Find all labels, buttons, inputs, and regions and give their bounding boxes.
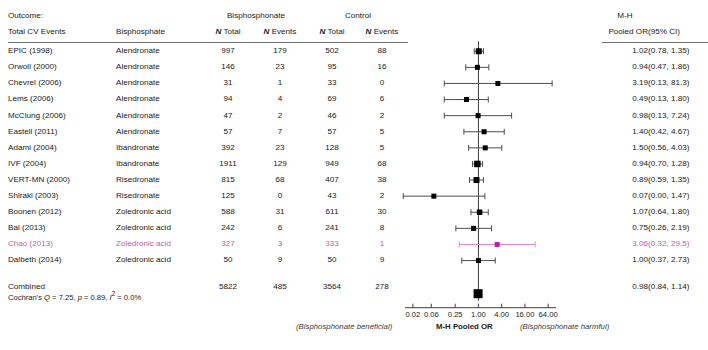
study-label: EPIC (1998) xyxy=(8,43,116,60)
ctrl-n-total: 46 xyxy=(308,108,356,124)
bisph-n-total: 997 xyxy=(204,43,252,60)
ctrl-n-events: 68 xyxy=(356,156,408,172)
q-value: = 7.25, xyxy=(50,293,78,302)
ctrl-n-events: 30 xyxy=(356,204,408,220)
bisph-n-events: 1 xyxy=(252,75,308,91)
drug-name: Zoledronic acid xyxy=(116,204,204,220)
study-label: Boonen (2012) xyxy=(8,204,116,220)
table-row: McClung (2006)Alendronate4724620.98(0.13… xyxy=(8,108,708,124)
table-row: Eastell (2011)Alendronate5775751.40(0.42… xyxy=(8,124,708,140)
group-header-bisphosphonate: Bisphosphonate xyxy=(204,8,308,24)
table-row: Chao (2013)Zoledronic acid327333313.06(0… xyxy=(8,236,708,252)
bisph-n-events: 179 xyxy=(252,43,308,60)
spacer-cell xyxy=(408,269,602,279)
odds-ratio: 0.94 xyxy=(602,59,648,75)
drug-name: Alendronate xyxy=(116,108,204,124)
combined-confidence-interval: (0.84, 1.14) xyxy=(648,279,708,295)
axis-tick-label: 4.00 xyxy=(494,310,509,319)
drug-name: Alendronate xyxy=(116,91,204,107)
odds-ratio: 1.07 xyxy=(602,204,648,220)
ctrl-n-events: 88 xyxy=(356,43,408,60)
outcome-label-line2: Total CV Events xyxy=(8,24,116,40)
plot-cell xyxy=(408,91,602,107)
table-row: Chevrel (2006)Alendronate3113303.19(0.13… xyxy=(8,75,708,91)
ci-header-spacer xyxy=(648,8,708,24)
plot-cell xyxy=(408,59,602,75)
bisph-n-events: 23 xyxy=(252,59,308,75)
ctrl-n-total: 333 xyxy=(308,236,356,252)
plot-column-spacer xyxy=(408,24,602,40)
plot-cell xyxy=(408,172,602,188)
bisph-n-total: 392 xyxy=(204,140,252,156)
forest-plot-table: Outcome:BisphosphonateControlM-HTotal CV… xyxy=(8,8,708,295)
confidence-interval: (0.13, 1.80) xyxy=(648,91,708,107)
bisph-n-total: 327 xyxy=(204,236,252,252)
spacer-cell xyxy=(116,269,204,279)
drug-name: Zoledronic acid xyxy=(116,220,204,236)
axis-tick-label: 16.00 xyxy=(515,310,534,319)
ctrl-n-total: 50 xyxy=(308,252,356,268)
column-header-ctrl-nevents: N Events xyxy=(356,24,408,40)
odds-ratio: 0.98 xyxy=(602,108,648,124)
plot-header-spacer xyxy=(408,8,602,24)
table-row: Dalbeth (2014)Zoledronic acid5095091.00(… xyxy=(8,252,708,268)
bisph-n-total: 47 xyxy=(204,108,252,124)
spacer-cell xyxy=(308,269,356,279)
plot-cell xyxy=(408,75,602,91)
bisph-n-events: 3 xyxy=(252,236,308,252)
mh-header-line1: M-H xyxy=(602,8,648,24)
axis-label-beneficial: (Bisphosphonate beneficial) xyxy=(296,322,392,331)
ctrl-n-total: 57 xyxy=(308,124,356,140)
plot-cell xyxy=(408,156,602,172)
plot-cell xyxy=(408,204,602,220)
bisph-n-total: 50 xyxy=(204,252,252,268)
table-row: EPIC (1998)Alendronate997179502881.02(0.… xyxy=(8,43,708,60)
spacer-cell xyxy=(356,269,408,279)
table-spacer-row xyxy=(8,269,708,279)
study-label: IVF (2004) xyxy=(8,156,116,172)
drug-name: Zoledronic acid xyxy=(116,252,204,268)
drug-name: Risedronate xyxy=(116,188,204,204)
confidence-interval: (0.56, 4.03) xyxy=(648,140,708,156)
ctrl-n-total: 611 xyxy=(308,204,356,220)
spacer-cell xyxy=(116,8,204,24)
table-row: Bai (2013)Zoledronic acid242624180.75(0.… xyxy=(8,220,708,236)
ctrl-n-events: 8 xyxy=(356,220,408,236)
table-column-header-row: Total CV EventsBisphosphateN TotalN Even… xyxy=(8,24,708,40)
ctrl-n-total: 33 xyxy=(308,75,356,91)
plot-cell xyxy=(408,124,602,140)
combined-plot-cell xyxy=(408,279,602,295)
bisph-n-total: 588 xyxy=(204,204,252,220)
bisph-n-total: 125 xyxy=(204,188,252,204)
drug-name: Alendronate xyxy=(116,59,204,75)
study-label: Adami (2004) xyxy=(8,140,116,156)
combined-bisph-n-total: 5822 xyxy=(204,279,252,295)
study-label: McClung (2006) xyxy=(8,108,116,124)
confidence-interval: (0.32, 29.5) xyxy=(648,236,708,252)
bisph-n-total: 31 xyxy=(204,75,252,91)
odds-ratio: 3.19 xyxy=(602,75,648,91)
plot-cell xyxy=(408,252,602,268)
drug-name: Ibandronate xyxy=(116,140,204,156)
ctrl-n-events: 6 xyxy=(356,91,408,107)
plot-cell xyxy=(408,140,602,156)
confidence-interval: (0.78, 1.35) xyxy=(648,43,708,60)
ctrl-n-events: 1 xyxy=(356,236,408,252)
ctrl-n-events: 2 xyxy=(356,108,408,124)
group-header-control: Control xyxy=(308,8,408,24)
study-label: Orwoll (2000) xyxy=(8,59,116,75)
drug-name: Zoledronic acid xyxy=(116,236,204,252)
bisph-n-total: 815 xyxy=(204,172,252,188)
study-label: Shiraki (2003) xyxy=(8,188,116,204)
confidence-interval: (0.42, 4.67) xyxy=(648,124,708,140)
table-row: Shiraki (2003)Risedronate12504320.07(0.0… xyxy=(8,188,708,204)
bisph-n-events: 9 xyxy=(252,252,308,268)
drug-name: Ibandronate xyxy=(116,156,204,172)
combined-odds-ratio: 0.98 xyxy=(602,279,648,295)
p-value: = 0.89, xyxy=(82,293,110,302)
odds-ratio: 0.89 xyxy=(602,172,648,188)
odds-ratio: 1.00 xyxy=(602,252,648,268)
ctrl-n-events: 5 xyxy=(356,140,408,156)
heterogeneity-stats: Cochran's Q = 7.25, p = 0.89, I2 = 0.0% xyxy=(8,290,141,302)
bisph-n-events: 2 xyxy=(252,108,308,124)
